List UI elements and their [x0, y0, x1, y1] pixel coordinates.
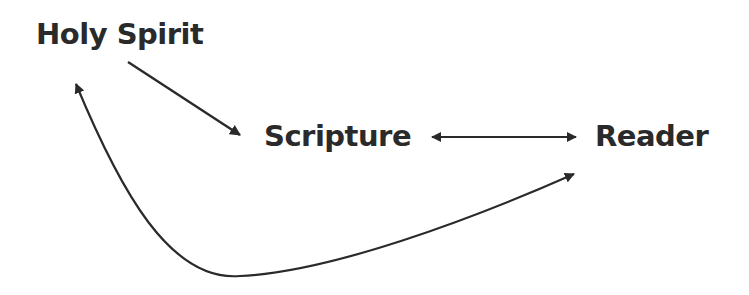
- node-reader: Reader: [595, 122, 708, 151]
- arrow-holy-spirit-to-scripture: [128, 62, 240, 135]
- node-holy-spirit: Holy Spirit: [36, 20, 203, 49]
- node-scripture: Scripture: [264, 122, 411, 151]
- curved-arrow-reader-holy-spirit: [76, 84, 574, 276]
- diagram-canvas: Holy Spirit Scripture Reader: [0, 0, 749, 295]
